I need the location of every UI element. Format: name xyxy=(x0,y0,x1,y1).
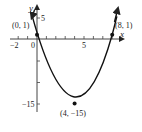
point-vertex xyxy=(73,102,77,106)
tick-label-neg15: −15 xyxy=(22,100,35,109)
point-0-1 xyxy=(35,33,39,37)
y-axis-label: y xyxy=(28,3,33,13)
parabola-chart: y x −2 0 5 5 −15 (0, 1) (8, 1) (4, −15) xyxy=(0,0,142,132)
x-axis-label: x xyxy=(119,29,124,39)
point-label-vertex: (4, −15) xyxy=(60,109,86,118)
parabola-curve xyxy=(32,16,117,97)
tick-label-0: 0 xyxy=(31,41,35,50)
point-label-8-1: (8, 1) xyxy=(115,21,133,30)
tick-label-5x: 5 xyxy=(82,41,86,50)
tick-label-5y: 5 xyxy=(41,14,45,23)
point-label-0-1: (0, 1) xyxy=(12,21,30,30)
point-8-1 xyxy=(110,33,114,37)
tick-label-neg2: −2 xyxy=(10,41,19,50)
